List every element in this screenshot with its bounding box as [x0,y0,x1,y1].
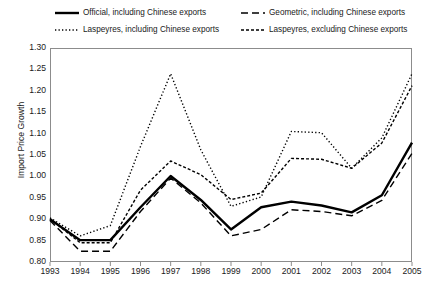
legend-item-official: Official, including Chinese exports [54,4,240,21]
dashed-line-key [240,7,266,19]
y-tick-label: 1.30 [16,43,46,52]
dash-dot-line-key [240,24,266,36]
y-tick-label: 1.20 [16,86,46,95]
legend-label-laspeyres-including: Laspeyres, including Chinese exports [83,25,219,35]
legend-row-2: Laspeyres, including Chinese exports Las… [54,21,426,38]
y-tick-label: 1.25 [16,64,46,73]
y-tick-label: 1.10 [16,129,46,138]
x-tick-label: 2005 [392,266,429,276]
dotted-line-key [54,24,80,36]
y-tick-label: 1.00 [16,171,46,180]
y-tick-label: 1.05 [16,150,46,159]
y-tick-label: 0.85 [16,236,46,245]
legend-label-official: Official, including Chinese exports [83,8,206,18]
legend-label-laspeyres-excluding: Laspeyres, excluding Chinese exports [269,25,407,35]
y-tick-label: 0.90 [16,214,46,223]
legend-row-1: Official, including Chinese exports Geom… [54,4,426,21]
legend-item-laspeyres-including: Laspeyres, including Chinese exports [54,21,240,38]
legend-item-geometric: Geometric, including Chinese exports [240,4,426,21]
chart-figure: Official, including Chinese exports Geom… [0,0,429,288]
y-tick-label: 1.15 [16,107,46,116]
y-tick-label: 0.80 [16,257,46,266]
y-tick-label: 0.95 [16,193,46,202]
legend-label-geometric: Geometric, including Chinese exports [269,8,405,18]
solid-line-key [54,7,80,19]
y-axis-tick-labels: 0.800.850.900.951.001.051.101.151.201.25… [14,0,46,288]
plot-area [50,48,412,262]
chart-legend: Official, including Chinese exports Geom… [54,4,426,38]
legend-item-laspeyres-excluding: Laspeyres, excluding Chinese exports [240,21,426,38]
